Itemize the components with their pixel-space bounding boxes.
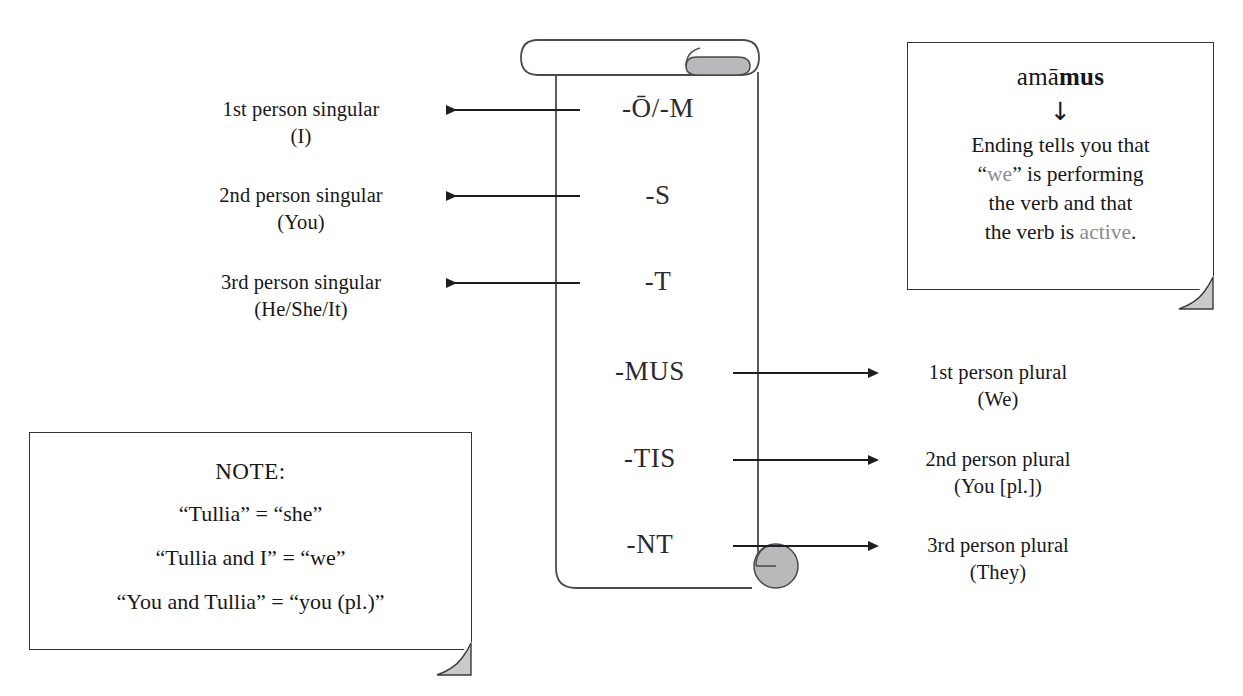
label-third-person-singular: 3rd person singular (He/She/It) — [176, 269, 426, 323]
label-first-person-plural-line1: 1st person plural — [929, 361, 1067, 383]
verb-explanation-line2-rest: is performing — [1022, 162, 1144, 186]
label-third-person-plural-line1: 3rd person plural — [927, 534, 1069, 556]
verb-explanation-text: Ending tells you that “we” is performing… — [908, 131, 1213, 247]
highlight-subject-we: we — [987, 162, 1012, 186]
verb-explanation-line1: Ending tells you that — [971, 133, 1150, 157]
label-second-person-plural-line1: 2nd person plural — [925, 448, 1070, 470]
verb-headword: amāmus — [908, 63, 1213, 91]
label-first-person-singular-line1: 1st person singular — [223, 98, 380, 120]
label-third-person-plural-line2: (They) — [888, 559, 1108, 586]
diagram-canvas: -Ō/-M -S -T -MUS -TIS -NT 1st person sin… — [0, 0, 1243, 696]
page-fold-corner-icon — [1174, 270, 1214, 310]
label-second-person-singular: 2nd person singular (You) — [176, 182, 426, 236]
note-line-3: “You and Tullia” = “you (pl.)” — [30, 586, 471, 617]
ending-third-plural: -NT — [570, 529, 730, 560]
label-third-person-singular-line2: (He/She/It) — [176, 296, 426, 323]
label-first-person-plural-line2: (We) — [888, 386, 1108, 413]
verb-explanation-line3: the verb and that — [989, 191, 1133, 215]
ending-third-singular: -T — [578, 266, 738, 297]
note-title: NOTE: — [30, 459, 471, 485]
label-first-person-singular: 1st person singular (I) — [176, 96, 426, 150]
label-first-person-singular-line2: (I) — [176, 123, 426, 150]
note-line-1: “Tullia” = “she” — [30, 498, 471, 529]
label-first-person-plural: 1st person plural (We) — [888, 359, 1108, 413]
label-third-person-singular-line1: 3rd person singular — [221, 271, 381, 293]
ending-first-plural: -MUS — [570, 356, 730, 387]
quote-close-1: ” — [1012, 162, 1022, 186]
label-second-person-singular-line1: 2nd person singular — [219, 184, 383, 206]
ending-second-plural: -TIS — [570, 443, 730, 474]
ending-second-singular: -S — [578, 180, 738, 211]
label-second-person-plural-line2: (You [pl.]) — [888, 473, 1108, 500]
down-arrow-icon: ↓ — [908, 97, 1213, 127]
verb-headword-ending: mus — [1059, 63, 1104, 90]
verb-headword-stem: amā — [1017, 63, 1059, 90]
scroll-outline-left — [556, 75, 752, 588]
verb-ending-explanation-box: amāmus ↓ Ending tells you that “we” is p… — [907, 42, 1214, 290]
highlight-voice-active: active — [1080, 220, 1131, 244]
note-line-2: “Tullia and I” = “we” — [30, 542, 471, 573]
verb-explanation-line4-pre: the verb is — [985, 220, 1080, 244]
note-page-fold-corner-icon — [432, 636, 472, 676]
note-box: NOTE: “Tullia” = “she” “Tullia and I” = … — [29, 432, 472, 650]
scroll-top-roll-knob — [686, 57, 750, 75]
label-third-person-plural: 3rd person plural (They) — [888, 532, 1108, 586]
quote-open-1: “ — [978, 162, 988, 186]
ending-first-singular: -Ō/-M — [578, 93, 738, 124]
verb-explanation-line4-post: . — [1131, 220, 1136, 244]
label-second-person-plural: 2nd person plural (You [pl.]) — [888, 446, 1108, 500]
label-second-person-singular-line2: (You) — [176, 209, 426, 236]
